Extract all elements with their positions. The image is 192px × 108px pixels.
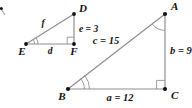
- vertex-dot-a: [163, 12, 167, 16]
- geometry-canvas: D E F f e = 3 d A B C c = 15: [0, 0, 192, 108]
- angle-mark-b-arc-outer: [81, 79, 85, 89]
- vertex-label-e: E: [17, 45, 25, 57]
- angle-mark-e-arc-inner: [36, 38, 38, 44]
- side-label-f: f: [41, 18, 45, 28]
- vertex-label-d: D: [78, 2, 87, 14]
- side-label-a: a = 12: [107, 92, 135, 103]
- side-label-e: e = 3: [79, 24, 98, 34]
- angle-mark-e-arc-outer: [33, 40, 34, 44]
- geometry-figure: D E F f e = 3 d A B C c = 15: [0, 0, 192, 108]
- vertex-label-a: A: [170, 0, 178, 12]
- vertex-dot-d: [72, 12, 76, 16]
- vertex-dot-b: [66, 87, 70, 91]
- side-label-d: d: [48, 46, 53, 56]
- side-label-c: c = 15: [93, 35, 119, 46]
- vertex-dot-c: [163, 87, 167, 91]
- vertex-label-b: B: [57, 90, 65, 102]
- side-label-b: b = 9: [170, 45, 192, 56]
- vertex-label-f: F: [69, 45, 78, 57]
- angle-mark-b-arc-inner: [85, 75, 90, 89]
- small-triangle-def: D E F f e = 3 d: [17, 2, 98, 57]
- vertex-label-c: C: [171, 89, 179, 101]
- angle-mark-a-arc: [152, 24, 165, 30]
- cropped-vertex-dot: [0, 7, 3, 10]
